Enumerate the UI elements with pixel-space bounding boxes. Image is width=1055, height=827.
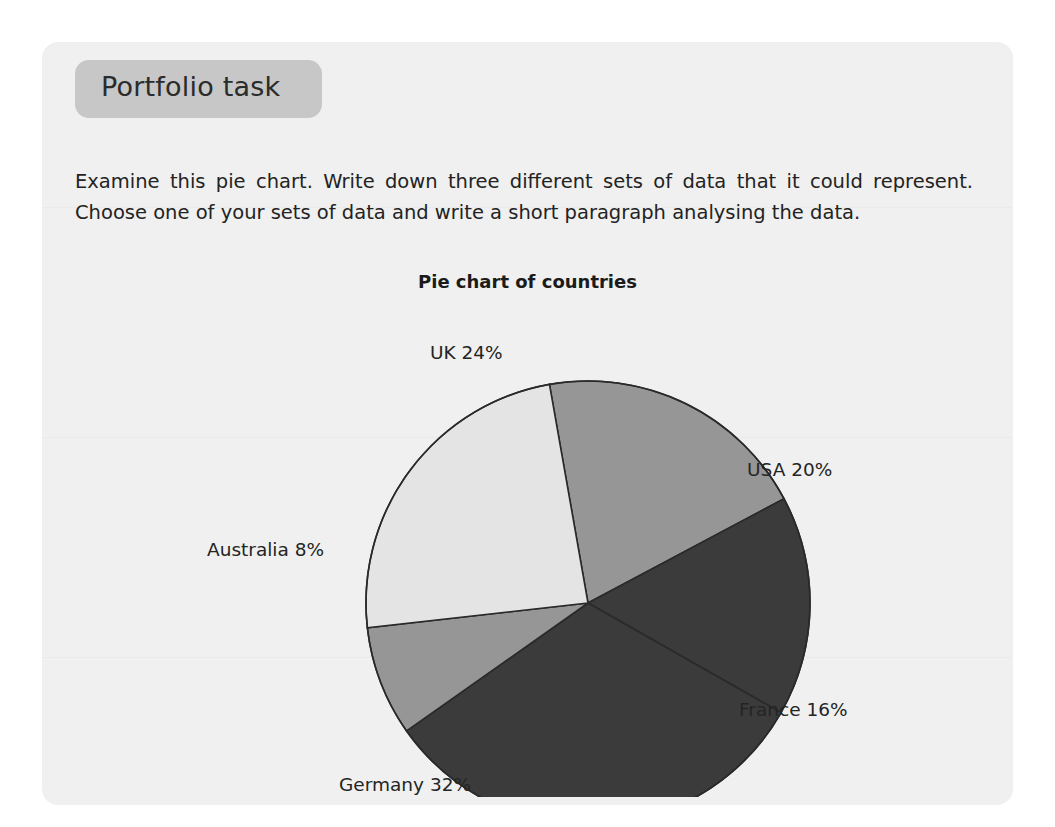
- pie-chart-graphic: [42, 267, 1013, 797]
- pie-label-australia: Australia 8%: [207, 539, 324, 560]
- task-instructions: Examine this pie chart. Write down three…: [75, 166, 973, 228]
- pie-label-usa: USA 20%: [747, 459, 832, 480]
- pie-slice-uk: [366, 384, 588, 627]
- worksheet-page: Portfolio task Examine this pie chart. W…: [42, 42, 1013, 805]
- portfolio-task-banner: Portfolio task: [75, 60, 322, 118]
- pie-chart-figure: Pie chart of countries UK 24% USA 20% Fr…: [42, 267, 1013, 797]
- pie-label-france: France 16%: [739, 699, 848, 720]
- pie-label-uk: UK 24%: [430, 342, 503, 363]
- pie-label-germany: Germany 32%: [339, 774, 471, 795]
- page-title: Portfolio task: [101, 71, 280, 102]
